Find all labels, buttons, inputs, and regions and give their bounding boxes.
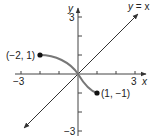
graph-figure: y 3 −3 −3 3 x (−2, 1) (1, −1) y = x [0, 0, 155, 138]
coordinate-plane: y 3 −3 −3 3 x (−2, 1) (1, −1) y = x [0, 0, 155, 138]
x-max-label: 3 [131, 76, 137, 87]
point-a-dot [37, 52, 42, 57]
line-y-equals-x [24, 14, 138, 128]
line-equation-label: y = x [127, 1, 149, 12]
x-axis-label: x [141, 76, 148, 87]
point-a-label: (−2, 1) [6, 50, 35, 61]
point-b-dot [94, 90, 99, 95]
point-b-label: (1, −1) [101, 88, 130, 99]
y-max-label: 3 [69, 12, 75, 23]
y-min-label: −3 [64, 126, 76, 137]
x-min-label: −3 [13, 76, 25, 87]
